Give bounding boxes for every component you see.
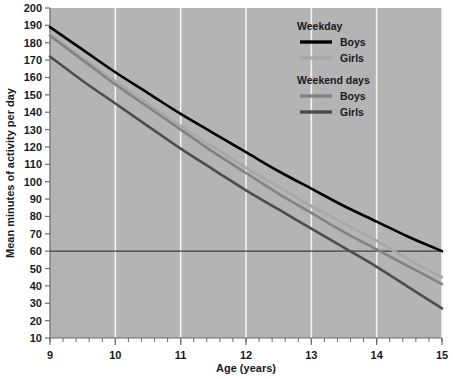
legend-group-heading: Weekend days — [297, 74, 370, 86]
y-tick-label: 50 — [30, 263, 42, 275]
y-tick-label: 180 — [24, 37, 42, 49]
y-tick-label: 40 — [30, 280, 42, 292]
legend-group-heading: Weekday — [297, 20, 342, 32]
y-tick-label: 70 — [30, 228, 42, 240]
y-tick-label: 190 — [24, 19, 42, 31]
y-tick-label: 60 — [30, 245, 42, 257]
y-tick-label: 90 — [30, 193, 42, 205]
y-tick-label: 140 — [24, 106, 42, 118]
y-tick-label: 120 — [24, 141, 42, 153]
x-tick-label: 13 — [305, 349, 317, 361]
y-tick-label: 80 — [30, 210, 42, 222]
chart-figure: 1020304050607080901001101201301401501601… — [0, 0, 453, 379]
y-tick-label: 30 — [30, 297, 42, 309]
y-tick-label: 150 — [24, 89, 42, 101]
y-tick-label: 10 — [30, 332, 42, 344]
y-tick-label: 110 — [24, 158, 42, 170]
x-axis-ticks: 9101112131415 — [47, 338, 448, 361]
x-tick-label: 14 — [371, 349, 384, 361]
x-tick-label: 11 — [175, 349, 187, 361]
y-tick-label: 130 — [24, 124, 42, 136]
y-tick-label: 160 — [24, 71, 42, 83]
y-tick-label: 100 — [24, 176, 42, 188]
line-chart: 1020304050607080901001101201301401501601… — [0, 0, 453, 379]
y-axis-ticks: 1020304050607080901001101201301401501601… — [24, 2, 50, 344]
legend-entry-label: Girls — [340, 106, 364, 118]
legend-entry-label: Boys — [340, 36, 366, 48]
y-tick-label: 20 — [30, 315, 42, 327]
x-tick-label: 10 — [109, 349, 121, 361]
x-tick-label: 9 — [47, 349, 53, 361]
x-tick-label: 15 — [436, 349, 448, 361]
x-axis-title: Age (years) — [216, 362, 276, 374]
y-tick-label: 170 — [24, 54, 42, 66]
y-tick-label: 200 — [24, 2, 42, 14]
legend-entry-label: Girls — [340, 52, 364, 64]
legend-entry-label: Boys — [340, 90, 366, 102]
y-axis-title: Mean minutes of activity per day — [4, 87, 16, 258]
x-tick-label: 12 — [240, 349, 252, 361]
